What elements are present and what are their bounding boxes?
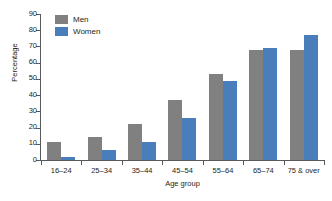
y-axis-title: Percentage — [10, 23, 19, 103]
bar-women — [223, 81, 237, 160]
x-axis-tick-label: 75 & over — [284, 166, 324, 175]
x-axis-tick-label: 45–54 — [162, 166, 202, 175]
x-axis-tick-mark — [243, 160, 244, 165]
bar-women — [102, 150, 116, 160]
bar-women — [304, 35, 318, 160]
x-axis-tick-mark — [203, 160, 204, 165]
x-axis-tick-mark — [284, 160, 285, 165]
x-axis-tick-mark — [122, 160, 123, 165]
bar-men — [249, 50, 263, 160]
legend-swatch-men-icon — [55, 15, 68, 24]
bar-group — [284, 14, 324, 160]
bar-women — [142, 142, 156, 160]
bar-men — [209, 74, 223, 160]
x-axis-title: Age group — [41, 179, 324, 188]
y-axis-tick-label: 50 — [29, 73, 37, 82]
legend-label-men: Men — [73, 16, 89, 24]
y-axis-tick-label: 90 — [29, 9, 37, 18]
x-axis-tick-mark — [162, 160, 163, 165]
bar-chart: Percentage 0102030405060708090 16–2425–3… — [0, 0, 332, 201]
y-axis-tick-label: 60 — [29, 57, 37, 66]
y-axis-tick-label: 70 — [29, 41, 37, 50]
x-axis-line — [40, 160, 324, 161]
x-axis-tick-label: 16–24 — [41, 166, 81, 175]
bar-group — [162, 14, 202, 160]
legend-label-women: Women — [73, 28, 100, 36]
bar-men — [128, 124, 142, 160]
bar-group — [203, 14, 243, 160]
bar-men — [47, 142, 61, 160]
x-axis-tick-label: 25–34 — [81, 166, 121, 175]
x-axis-tick-mark — [81, 160, 82, 165]
y-axis-tick-label: 30 — [29, 106, 37, 115]
x-axis-tick-mark — [324, 160, 325, 165]
x-axis-tick-label: 35–44 — [122, 166, 162, 175]
x-axis-tick-label: 55–64 — [203, 166, 243, 175]
y-axis-tick-label: 0 — [33, 155, 37, 164]
y-axis-tick-label: 80 — [29, 25, 37, 34]
y-axis-tick-label: 10 — [29, 138, 37, 147]
legend-item-women: Women — [55, 27, 100, 36]
bar-group — [122, 14, 162, 160]
bar-men — [88, 137, 102, 160]
x-axis-labels: 16–2425–3435–4445–5455–6465–7475 & over — [41, 166, 324, 175]
y-axis-tick-label: 20 — [29, 122, 37, 131]
bar-men — [290, 50, 304, 160]
bar-women — [263, 48, 277, 160]
x-axis-tick-label: 65–74 — [243, 166, 283, 175]
x-axis-tick-mark — [41, 160, 42, 165]
bar-group — [243, 14, 283, 160]
legend-swatch-women-icon — [55, 27, 68, 36]
y-axis-tick-label: 40 — [29, 90, 37, 99]
bar-women — [182, 118, 196, 160]
bar-women — [61, 157, 75, 160]
bar-men — [168, 100, 182, 160]
chart-legend: Men Women — [55, 15, 100, 39]
legend-item-men: Men — [55, 15, 100, 24]
